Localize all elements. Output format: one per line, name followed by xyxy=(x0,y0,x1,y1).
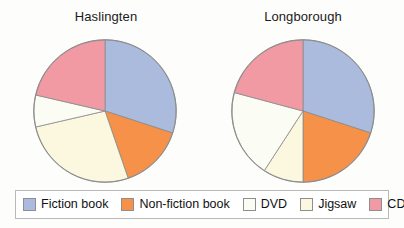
legend-item-fiction-book[interactable]: Fiction book xyxy=(23,198,108,211)
chart-title-longborough: Longborough xyxy=(213,9,393,24)
pie-chart-haslingten xyxy=(32,38,178,184)
legend-item-dvd[interactable]: DVD xyxy=(243,198,287,211)
legend-swatch-cd xyxy=(369,198,382,211)
legend: Fiction book Non-fiction book DVD Jigsaw… xyxy=(15,190,389,219)
legend-label-cd: CD xyxy=(387,198,404,211)
legend-label-dvd: DVD xyxy=(261,198,287,211)
legend-label-fiction-book: Fiction book xyxy=(41,198,108,211)
legend-label-non-fiction-book: Non-fiction book xyxy=(139,198,229,211)
legend-swatch-dvd xyxy=(243,198,256,211)
pie-svg-longborough xyxy=(230,38,376,184)
legend-item-jigsaw[interactable]: Jigsaw xyxy=(300,198,356,211)
legend-label-jigsaw: Jigsaw xyxy=(318,198,356,211)
legend-item-cd[interactable]: CD xyxy=(369,198,404,211)
pie-chart-longborough xyxy=(230,38,376,184)
chart-title-haslingten: Haslingten xyxy=(16,9,196,24)
legend-swatch-jigsaw xyxy=(300,198,313,211)
legend-swatch-fiction-book xyxy=(23,198,36,211)
legend-swatch-non-fiction-book xyxy=(121,198,134,211)
pie-chart-figure: Haslingten Longborough Fiction book Non-… xyxy=(0,0,404,228)
legend-item-non-fiction-book[interactable]: Non-fiction book xyxy=(121,198,229,211)
pie-svg-haslingten xyxy=(32,38,178,184)
